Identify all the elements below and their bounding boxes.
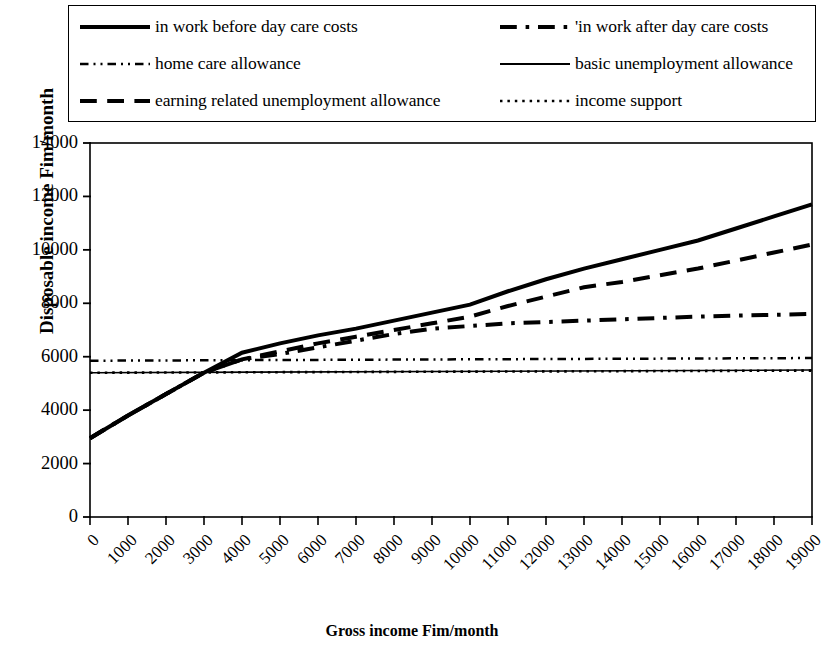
chart-figure: in work before day care costs'in work af… bbox=[0, 0, 824, 648]
x-axis-title: Gross income Fim/month bbox=[0, 622, 824, 640]
plot-frame bbox=[90, 143, 812, 517]
plot-area bbox=[0, 0, 824, 648]
